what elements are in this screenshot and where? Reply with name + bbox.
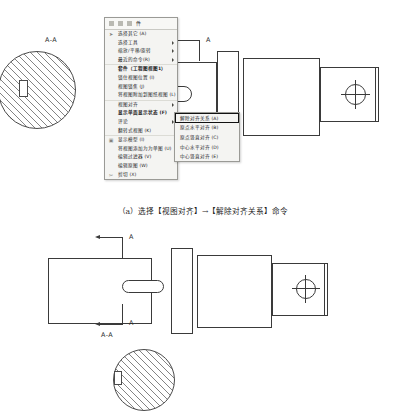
shaft-collar-b <box>171 248 193 334</box>
chevron-right-icon <box>172 49 174 53</box>
section-arrowhead-bottom-b <box>95 322 100 326</box>
chevron-right-icon <box>172 58 174 62</box>
figure-a-view-arrow-label: A <box>206 36 211 44</box>
pointer-icon: ➤ <box>108 31 114 37</box>
submenu-item-align-horizontal-by-origin[interactable]: 原点水平对齐 (B) <box>175 123 239 133</box>
menu-item-label: 视图对齐 <box>118 103 138 108</box>
menu-item-show-model[interactable]: ▣ 显示模型 (I) <box>105 135 177 145</box>
menu-item-label: 编辑过滤器 (V) <box>118 155 151 160</box>
center-mark-v-a <box>355 80 356 109</box>
menu-item-attach-view-to-sheet[interactable]: 将视图附加到图纸视图 (L) <box>105 91 177 100</box>
figure-a-section-label: A-A <box>45 36 57 44</box>
shaft-end-edge-b <box>324 263 325 316</box>
submenu-item-align-vertical-by-origin[interactable]: 原点竖直对齐 (C) <box>175 132 239 142</box>
shaft-segment-mid-b <box>197 255 272 328</box>
menu-item-edit-filter[interactable]: 编辑过滤器 (V) <box>105 153 177 162</box>
section-arrowhead-top-b <box>95 235 100 239</box>
menu-item-label: 将视图添加为为单图 (U) <box>118 147 171 152</box>
menu-item-label: 最近的命令(R) <box>118 58 150 63</box>
menu-item-zoom-pan-rotate[interactable]: 缩放/平移/旋转 <box>105 47 177 56</box>
keyway-notch-a <box>19 80 28 97</box>
copy-icon <box>118 21 123 26</box>
figure-b-arrow-label-top: A <box>129 233 134 241</box>
menu-item-label: 视图锁焦 (J) <box>118 85 144 90</box>
context-menu[interactable]: 件 ➤ 选择其它 (A) 选择工具 缩放/平移/旋转 最近的命令(R) 套件（工… <box>104 17 178 180</box>
menu-item-add-view-as-sheet[interactable]: 将视图添加为为单图 (U) <box>105 145 177 154</box>
submenu-item-label: 原点竖直对齐 (C) <box>180 134 218 140</box>
menu-item-drawing-view-group[interactable]: 套件（工程图视图1） <box>105 64 177 74</box>
shaft-end-edge-a <box>375 67 376 122</box>
shaft-slot-b <box>122 280 164 293</box>
menu-item-label: 选择工具 <box>118 41 138 46</box>
section-arrow-leader-bottom-b <box>122 304 123 325</box>
menu-item-label: 将视图附加到图纸视图 (L) <box>118 93 176 98</box>
menu-item-view-alignment[interactable]: 视图对齐 <box>105 100 177 110</box>
submenu-item-label: 中心水平对齐 (D) <box>180 144 219 150</box>
menu-item-label: 评论 <box>118 120 128 125</box>
scissors-icon: ✂ <box>108 172 114 178</box>
section-arrow-leader-top-b <box>122 237 123 258</box>
figure-a-caption: （a）选择【视图对齐】→【解除对齐关系】命令 <box>0 205 406 216</box>
menu-item-edit-source[interactable]: 编辑原图 (W) <box>105 162 177 171</box>
paste-icon <box>127 21 132 26</box>
shaft-segment-mid-a <box>243 58 320 136</box>
submenu-item-label: 中心竖直对齐 (E) <box>180 153 218 159</box>
cut-icon <box>109 21 114 26</box>
submenu-item-label: 原点水平对齐 (B) <box>180 124 218 130</box>
menu-item-label: 显示模型 (I) <box>118 138 144 143</box>
menu-item-flip-view[interactable]: 翻转式视图 (K) <box>105 127 177 136</box>
submenu-item-label: 解除对齐关系 (A) <box>180 115 218 121</box>
figure-a: A-A A 件 ➤ 选择其它 (A) 选择工具 <box>0 0 406 218</box>
section-view-circle-a <box>0 51 76 129</box>
display-icon: ▣ <box>108 137 114 143</box>
submenu-item-break-alignment[interactable]: 解除对齐关系 (A) <box>175 113 239 123</box>
menu-item-label: 翻转式视图 (K) <box>118 129 151 134</box>
context-menu-header: 件 <box>105 18 177 30</box>
center-mark-h-b <box>292 288 320 289</box>
figure-b-section-label: A-A <box>101 331 113 339</box>
menu-item-cut[interactable]: ✂ 剪切 (X) <box>105 171 177 180</box>
menu-item-select-tools[interactable]: 选择工具 <box>105 39 177 48</box>
section-view-circle-b <box>113 349 175 411</box>
center-mark-v-b <box>305 275 306 303</box>
menu-item-label: 缩放/平移/旋转 <box>118 49 151 54</box>
menu-item-lock-view-position[interactable]: 锁住视图位置 (I) <box>105 74 177 83</box>
submenu-item-align-horizontal-by-center[interactable]: 中心水平对齐 (D) <box>175 142 239 152</box>
menu-item-label: 套件（工程图视图1） <box>118 67 166 72</box>
menu-item-label: 剪切 (X) <box>118 173 136 178</box>
section-arrow-line-top-b <box>99 237 123 238</box>
section-arrow-leader-a <box>199 40 200 61</box>
menu-item-lock-view-focus[interactable]: 视图锁焦 (J) <box>105 83 177 92</box>
menu-item-label: 显示单面显示状态 (F) <box>118 111 167 116</box>
section-arrow-line-a <box>176 40 200 41</box>
submenu-item-align-vertical-by-center[interactable]: 中心竖直对齐 (E) <box>175 151 239 161</box>
menu-item-tangent-edge-display[interactable]: 显示单面显示状态 (F) <box>105 109 177 118</box>
chevron-right-icon <box>172 41 174 45</box>
figure-b: A A A-A <box>0 218 406 416</box>
section-arrow-line-bottom-b <box>99 324 123 325</box>
menu-item-recent-commands[interactable]: 最近的命令(R) <box>105 56 177 65</box>
menu-item-label: 选择其它 (A) <box>118 32 146 37</box>
menu-item-label: 编辑原图 (W) <box>118 164 148 169</box>
view-alignment-submenu[interactable]: 解除对齐关系 (A) 原点水平对齐 (B) 原点竖直对齐 (C) 中心水平对齐 … <box>174 112 240 162</box>
menu-item-select-other[interactable]: ➤ 选择其它 (A) <box>105 30 177 39</box>
keyway-notch-b <box>114 371 122 385</box>
menu-item-comment[interactable]: 评论 <box>105 118 177 127</box>
figure-b-arrow-label-bottom: A <box>129 319 134 327</box>
context-menu-title: 件 <box>136 21 141 26</box>
center-hole-b <box>296 279 316 299</box>
chevron-right-icon <box>172 103 174 107</box>
menu-item-label: 锁住视图位置 (I) <box>118 76 154 81</box>
